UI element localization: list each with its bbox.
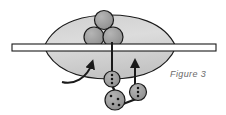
lower-left-dot-4 bbox=[118, 104, 121, 107]
horizontal-bar bbox=[12, 44, 216, 51]
top-sphere-apex bbox=[95, 11, 114, 30]
lower-right-sphere bbox=[130, 84, 147, 101]
lower-right-dot-3 bbox=[137, 95, 140, 98]
mid-sphere-dot-2 bbox=[111, 78, 114, 81]
lower-left-dot-3 bbox=[112, 103, 115, 106]
lower-right-dot-2 bbox=[137, 91, 140, 94]
lower-right-dot-1 bbox=[137, 87, 140, 90]
mid-sphere-dot-3 bbox=[111, 82, 114, 85]
mid-sphere bbox=[104, 71, 120, 87]
lower-left-dot-1 bbox=[110, 95, 113, 98]
figure-container: Figure 3 bbox=[0, 0, 226, 115]
figure-diagram bbox=[0, 0, 226, 115]
mid-sphere-dot-1 bbox=[111, 74, 114, 77]
lower-left-sphere bbox=[105, 90, 125, 110]
figure-caption: Figure 3 bbox=[170, 69, 206, 79]
lower-left-dot-2 bbox=[117, 98, 120, 101]
